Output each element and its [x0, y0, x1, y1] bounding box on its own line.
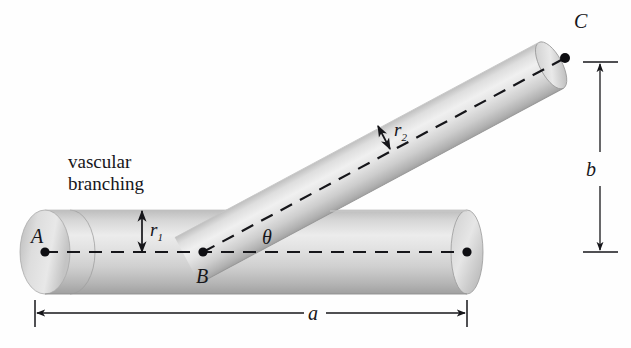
dimension-a-label: a — [308, 302, 318, 324]
junction-blend — [330, 210, 467, 212]
junction-shadow — [330, 210, 467, 212]
caption-line-2: branching — [68, 173, 144, 194]
theta-angle-label: θ — [262, 226, 272, 248]
diagram-canvas: vascular branching A B C r1 r2 θ a b — [0, 0, 631, 348]
point-a-marker — [40, 247, 49, 256]
point-c-marker — [560, 53, 570, 63]
branch-vessel-top-edge — [175, 42, 539, 237]
caption-line-1: vascular — [68, 151, 132, 172]
point-c-label: C — [574, 10, 588, 32]
point-b-label: B — [196, 265, 208, 287]
point-b-marker — [198, 247, 207, 256]
point-a-label: A — [29, 225, 44, 247]
point-d-marker — [462, 247, 471, 256]
vascular-branching-figure: vascular branching A B C r1 r2 θ a b — [0, 0, 631, 348]
dimension-b — [583, 62, 618, 252]
dimension-a — [35, 300, 467, 327]
dimension-b-label: b — [586, 158, 596, 180]
